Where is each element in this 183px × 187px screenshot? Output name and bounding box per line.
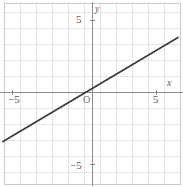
y-tick-label-minus-5: −5 [70, 160, 82, 171]
x-axis-label: x [167, 78, 171, 88]
y-axis-label: y [95, 4, 99, 14]
x-tick-label-5: 5 [153, 94, 159, 105]
origin-label: O [83, 95, 90, 105]
cartesian-line-graph: y x 5 −5 −5 5 O [0, 0, 183, 187]
x-tick-label-minus-5: −5 [8, 94, 20, 105]
y-tick-label-5: 5 [76, 14, 82, 25]
